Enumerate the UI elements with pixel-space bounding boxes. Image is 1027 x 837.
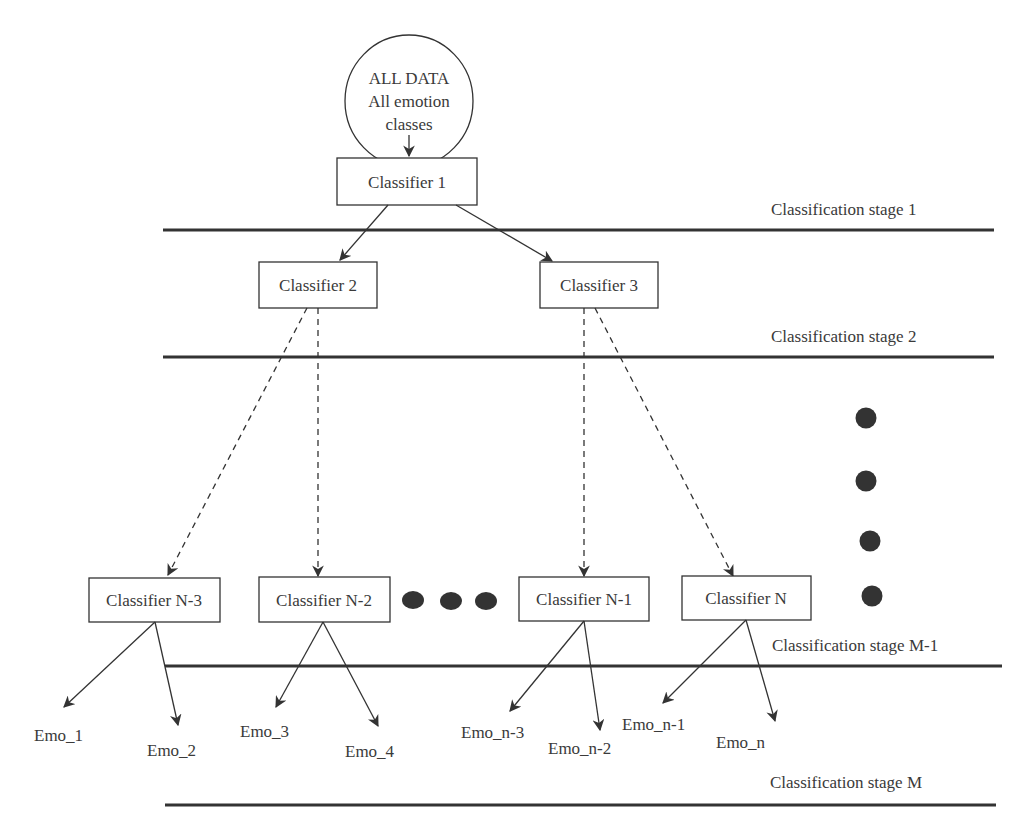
root-line-3: classes (385, 115, 432, 134)
leaf-emo-1: Emo_1 (34, 726, 83, 745)
arrow-c1-to-c3 (456, 205, 552, 261)
classifier-3-node: Classifier 3 (540, 262, 658, 308)
classifier-n-node: Classifier N (682, 576, 811, 620)
stage-m-label: Classification stage M (770, 773, 922, 792)
dashed-arrow-c2-to-cn3 (168, 308, 307, 575)
classifier-3-label: Classifier 3 (560, 276, 638, 295)
arrow-cn-to-emon1 (663, 620, 746, 703)
leaf-emo-n-3: Emo_n-3 (461, 723, 524, 742)
classifier-1-node: Classifier 1 (337, 158, 477, 205)
classifier-n-1-node: Classifier N-1 (519, 577, 649, 621)
classifier-n-3-label: Classifier N-3 (106, 591, 202, 610)
arrow-cn1-to-emon2 (584, 621, 600, 730)
stage-1-label: Classification stage 1 (771, 200, 916, 219)
leaf-emo-2: Emo_2 (147, 741, 196, 760)
stage-2-label: Classification stage 2 (771, 327, 916, 346)
stage-m-1-label: Classification stage M-1 (772, 636, 938, 655)
horizontal-ellipsis-icon (402, 591, 497, 610)
leaf-emo-4: Emo_4 (345, 742, 395, 761)
hierarchical-classifier-diagram: Classification stage 1 Classification st… (0, 0, 1027, 837)
leaf-emo-n-2: Emo_n-2 (548, 739, 611, 758)
classifier-n-1-label: Classifier N-1 (536, 590, 632, 609)
arrow-cn2-to-emo4 (323, 622, 378, 726)
arrow-cn3-to-emo1 (64, 622, 155, 707)
arrow-cn3-to-emo2 (155, 622, 178, 725)
vertical-ellipsis-icon (856, 408, 883, 607)
stage-lines (163, 230, 1002, 805)
dashed-arrow-c3-to-cn (595, 308, 733, 576)
arrow-cn-to-emon (746, 620, 775, 721)
classifier-2-label: Classifier 2 (279, 276, 357, 295)
classifier-1-label: Classifier 1 (368, 173, 446, 192)
classifier-n-2-label: Classifier N-2 (276, 591, 372, 610)
leaf-emo-n-1: Emo_n-1 (622, 715, 685, 734)
arrow-c1-to-c2 (340, 205, 388, 260)
classifier-n-3-node: Classifier N-3 (89, 578, 220, 622)
root-line-2: All emotion (368, 92, 450, 111)
root-line-1: ALL DATA (369, 69, 450, 88)
classifier-n-label: Classifier N (705, 589, 787, 608)
leaf-emo-3: Emo_3 (240, 722, 289, 741)
leaf-emo-n: Emo_n (716, 733, 766, 752)
classifier-2-node: Classifier 2 (259, 262, 377, 308)
classifier-n-2-node: Classifier N-2 (259, 577, 390, 622)
